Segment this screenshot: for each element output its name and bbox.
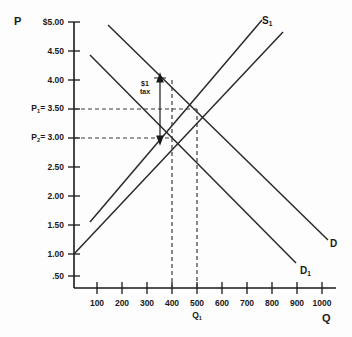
y-axis-title: P bbox=[14, 16, 21, 27]
x-tick-label-500: 500 bbox=[183, 299, 211, 308]
x-tick-label-700: 700 bbox=[233, 299, 261, 308]
quantity-label-q1: Q1 bbox=[183, 311, 211, 320]
curve-label-d-symbol: D bbox=[330, 238, 337, 249]
price-label-p1-value: = 3.50 bbox=[40, 103, 64, 113]
price-label-p2-value: = 3.00 bbox=[40, 132, 64, 142]
curve-label-d1-subscript: 1 bbox=[307, 270, 311, 277]
supply-curve-original bbox=[74, 32, 283, 254]
supply-curve-shifted bbox=[90, 20, 262, 222]
price-label-p1-subscript: 1 bbox=[37, 108, 40, 114]
axis-group bbox=[74, 22, 336, 288]
equilibrium-guides bbox=[74, 80, 197, 288]
quantity-label-q1-symbol: Q bbox=[192, 310, 199, 320]
curve-label-s1: S1 bbox=[262, 16, 272, 26]
supply-demand-chart: $5.00 4.50 4.00 2.50 2.00 1.50 1.00 .50 … bbox=[0, 0, 352, 337]
y-tick-label-1.00: 1.00 bbox=[12, 250, 64, 259]
price-label-p2-subscript: 2 bbox=[37, 137, 40, 143]
demand-curve-original bbox=[108, 25, 328, 240]
price-label-p1: P1= 3.50 bbox=[2, 104, 64, 113]
curve-label-d: D bbox=[330, 239, 337, 249]
x-tick-label-1000: 1000 bbox=[307, 299, 337, 308]
y-tick-label-4.50: 4.50 bbox=[12, 47, 64, 56]
x-axis-title: Q bbox=[322, 313, 331, 324]
y-tick-label-2.50: 2.50 bbox=[12, 163, 64, 172]
x-tick-label-100: 100 bbox=[83, 299, 111, 308]
x-tick-label-600: 600 bbox=[208, 299, 236, 308]
demand-curve-shifted bbox=[90, 55, 296, 263]
curve-label-s1-subscript: 1 bbox=[269, 20, 273, 27]
tax-word-label: tax bbox=[132, 88, 158, 96]
tax-annotation: $1 tax bbox=[132, 80, 158, 96]
x-tick-label-200: 200 bbox=[108, 299, 136, 308]
x-tick-label-800: 800 bbox=[258, 299, 286, 308]
x-tick-label-300: 300 bbox=[133, 299, 161, 308]
x-tick-label-400: 400 bbox=[158, 299, 186, 308]
curve-label-s1-symbol: S bbox=[262, 15, 269, 26]
y-tick-label-2.00: 2.00 bbox=[12, 192, 64, 201]
y-tick-label-0.50: .50 bbox=[12, 272, 64, 281]
quantity-label-q1-subscript: 1 bbox=[199, 315, 202, 321]
y-tick-label-1.50: 1.50 bbox=[12, 221, 64, 230]
curve-label-d1: D1 bbox=[300, 266, 311, 276]
tax-amount-label: $1 bbox=[132, 80, 158, 88]
y-tick-label-4.00: 4.00 bbox=[12, 76, 64, 85]
price-label-p2: P2= 3.00 bbox=[2, 133, 64, 142]
